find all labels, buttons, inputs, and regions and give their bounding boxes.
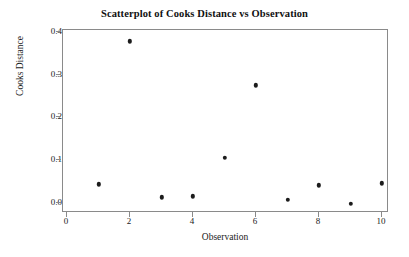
- x-tick-mark: [66, 212, 67, 217]
- x-tick-mark: [255, 212, 256, 217]
- x-tick-label: 6: [240, 216, 270, 226]
- x-tick-mark: [381, 212, 382, 217]
- x-tick-mark: [129, 212, 130, 217]
- x-axis-label: Observation: [62, 232, 388, 242]
- y-axis-label: Cooks Distance: [15, 6, 25, 126]
- x-tick-label: 10: [366, 216, 396, 226]
- x-tick-label: 8: [303, 216, 333, 226]
- x-tick-label: 2: [114, 216, 144, 226]
- x-tick-label: 0: [51, 216, 81, 226]
- scatterplot-figure: Scatterplot of Cooks Distance vs Observa…: [0, 0, 409, 257]
- x-tick-mark: [192, 212, 193, 217]
- x-tick-label: 4: [177, 216, 207, 226]
- x-tick-mark: [318, 212, 319, 217]
- x-axis: 0246810: [0, 0, 409, 257]
